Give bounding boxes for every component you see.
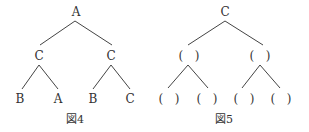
fig5-leaf-2-blank: ( ) bbox=[197, 92, 218, 106]
fig5-leaf-3-blank: ( ) bbox=[234, 92, 255, 106]
fig5-root-node: C bbox=[220, 5, 229, 19]
figure-5: C ( ) ( ) ( ) ( ) ( ) ( ) 図5 bbox=[159, 5, 292, 126]
fig4-leaf-1: B bbox=[16, 92, 25, 106]
fig4-caption: 図4 bbox=[66, 113, 84, 126]
tree-figures: A C C B A B C 図4 C ( ) ( ) ( ) ( ) ( ) (… bbox=[0, 0, 309, 132]
fig4-leaf-4: C bbox=[125, 92, 134, 106]
fig5-caption: 図5 bbox=[215, 113, 233, 126]
fig4-node-left: C bbox=[34, 49, 43, 63]
figure-4: A C C B A B C 図4 bbox=[16, 5, 135, 126]
fig4-leaf-3: B bbox=[89, 92, 98, 106]
fig5-leaf-1-blank: ( ) bbox=[159, 92, 180, 106]
fig5-leaf-4-blank: ( ) bbox=[271, 92, 292, 106]
fig4-root-node: A bbox=[71, 5, 81, 19]
fig5-node-right-blank: ( ) bbox=[250, 49, 271, 63]
fig4-node-right: C bbox=[106, 49, 115, 63]
fig5-node-left-blank: ( ) bbox=[179, 49, 200, 63]
tree-diagrams-svg: A C C B A B C 図4 C ( ) ( ) ( ) ( ) ( ) (… bbox=[0, 0, 309, 132]
fig4-leaf-2: A bbox=[53, 92, 63, 106]
